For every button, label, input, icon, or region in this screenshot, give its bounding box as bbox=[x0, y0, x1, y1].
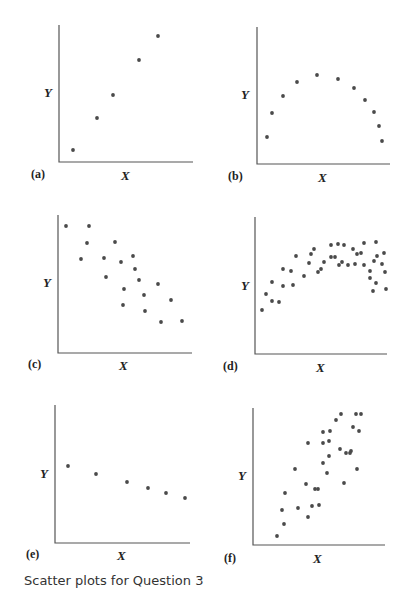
scatter-plot-grid: YX(a)YX(b)YX(c)YX(d)YX(e)YX(f) bbox=[0, 0, 406, 599]
scatter-panel-b: YX(b) bbox=[228, 27, 390, 185]
data-point bbox=[280, 508, 284, 512]
data-point bbox=[327, 439, 331, 443]
axes bbox=[58, 215, 192, 353]
data-point bbox=[85, 241, 89, 245]
data-point bbox=[94, 472, 98, 476]
data-point bbox=[275, 534, 279, 538]
data-point bbox=[102, 256, 106, 260]
data-point bbox=[338, 447, 342, 451]
data-point bbox=[156, 34, 160, 38]
panel-label: (b) bbox=[228, 169, 243, 183]
data-point bbox=[328, 429, 332, 433]
data-point bbox=[334, 418, 338, 422]
panel-label: (e) bbox=[26, 547, 39, 561]
y-axis-label: Y bbox=[43, 275, 52, 290]
data-point bbox=[325, 471, 329, 475]
data-point bbox=[122, 287, 126, 291]
data-point bbox=[137, 58, 141, 62]
data-point bbox=[327, 454, 331, 458]
data-point bbox=[353, 262, 357, 266]
data-point bbox=[380, 262, 384, 266]
data-point bbox=[104, 275, 108, 279]
data-point bbox=[383, 270, 387, 274]
data-point bbox=[131, 254, 135, 258]
axes bbox=[59, 25, 193, 162]
data-point bbox=[121, 303, 125, 307]
data-point bbox=[264, 292, 268, 296]
data-point bbox=[368, 276, 372, 280]
data-point bbox=[296, 506, 300, 510]
data-point bbox=[183, 496, 187, 500]
x-axis-label: X bbox=[312, 551, 322, 566]
data-point bbox=[277, 300, 281, 304]
y-axis-label: Y bbox=[238, 468, 247, 483]
data-point bbox=[265, 135, 269, 139]
data-point bbox=[307, 261, 311, 265]
data-point bbox=[336, 242, 340, 246]
data-point bbox=[294, 254, 298, 258]
data-point bbox=[270, 280, 274, 284]
panel-label: (a) bbox=[31, 167, 45, 181]
data-point bbox=[333, 255, 337, 259]
data-point bbox=[111, 93, 115, 97]
data-point bbox=[310, 504, 314, 508]
data-point bbox=[270, 111, 274, 115]
panel-label: (d) bbox=[223, 359, 238, 373]
data-point bbox=[351, 425, 355, 429]
scatter-panel-d: YX(d) bbox=[223, 217, 388, 375]
data-point bbox=[357, 429, 361, 433]
data-point bbox=[169, 298, 173, 302]
panel-label: (f) bbox=[224, 551, 236, 565]
data-point bbox=[304, 482, 308, 486]
data-point bbox=[359, 412, 363, 416]
figure-caption: Scatter plots for Question 3 bbox=[24, 573, 203, 588]
data-point bbox=[306, 441, 310, 445]
data-point bbox=[95, 116, 99, 120]
data-point bbox=[348, 451, 352, 455]
data-point bbox=[374, 281, 378, 285]
data-point bbox=[342, 243, 346, 247]
data-point bbox=[270, 299, 274, 303]
data-point bbox=[344, 451, 348, 455]
data-point bbox=[180, 319, 184, 323]
data-point bbox=[281, 94, 285, 98]
data-point bbox=[372, 110, 376, 114]
data-point bbox=[316, 270, 320, 274]
data-point bbox=[354, 412, 358, 416]
y-axis-label: Y bbox=[44, 85, 53, 100]
data-point bbox=[362, 263, 366, 267]
data-point bbox=[382, 251, 386, 255]
data-point bbox=[371, 289, 375, 293]
scatter-panel-f: YX(f) bbox=[224, 408, 385, 566]
data-point bbox=[125, 480, 129, 484]
data-point bbox=[309, 252, 313, 256]
panel-label: (c) bbox=[28, 357, 41, 371]
x-axis-label: X bbox=[118, 358, 128, 373]
data-point bbox=[295, 80, 299, 84]
data-point bbox=[375, 254, 379, 258]
x-axis-label: X bbox=[116, 548, 126, 563]
data-point bbox=[142, 293, 146, 297]
data-point bbox=[119, 260, 123, 264]
scatter-panel-a: YX(a) bbox=[31, 25, 193, 183]
scatter-panel-c: YX(c) bbox=[28, 215, 192, 373]
data-point bbox=[260, 308, 264, 312]
data-point bbox=[322, 260, 326, 264]
data-point bbox=[329, 243, 333, 247]
data-point bbox=[359, 251, 363, 255]
data-point bbox=[355, 252, 359, 256]
data-point bbox=[321, 430, 325, 434]
data-point bbox=[340, 260, 344, 264]
x-axis-label: X bbox=[315, 360, 325, 375]
y-axis-label: Y bbox=[241, 278, 250, 293]
data-point bbox=[351, 247, 355, 251]
data-point bbox=[133, 267, 137, 271]
data-point bbox=[321, 441, 325, 445]
axes bbox=[255, 217, 387, 354]
data-point bbox=[159, 320, 163, 324]
data-point bbox=[156, 282, 160, 286]
data-point bbox=[321, 461, 325, 465]
data-point bbox=[113, 240, 117, 244]
data-point bbox=[336, 77, 340, 81]
axes bbox=[55, 405, 190, 543]
